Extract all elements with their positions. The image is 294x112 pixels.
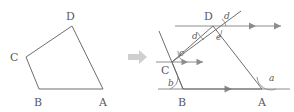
left-quadrilateral: A B C D xyxy=(10,10,108,109)
angle-label-e: e xyxy=(216,32,221,42)
edge-CD xyxy=(26,26,72,57)
geometry-figure: A B C D xyxy=(0,0,294,112)
angle-label-d-upper: d xyxy=(224,11,230,21)
vertex-label-C: C xyxy=(10,51,18,64)
right-construction: a b c d d e A B C D xyxy=(156,10,290,109)
edge-BC xyxy=(26,57,39,89)
angle-label-a: a xyxy=(269,73,274,83)
geometry-svg-canvas: A B C D xyxy=(0,0,294,112)
right-arrow-icon xyxy=(128,50,147,64)
edge-DA xyxy=(72,26,103,89)
vertex-label-B: B xyxy=(34,96,42,109)
vertex-label-D: D xyxy=(204,10,213,23)
vertex-label-C: C xyxy=(161,64,169,77)
angle-label-d-lower: d xyxy=(192,31,198,41)
vertex-label-B: B xyxy=(178,96,186,109)
vertex-label-A: A xyxy=(98,96,108,109)
vertex-label-D: D xyxy=(66,10,75,23)
angle-label-c: c xyxy=(179,48,184,58)
angle-label-b: b xyxy=(168,78,174,88)
vertex-label-A: A xyxy=(257,96,267,109)
parallel-line-through-D xyxy=(175,23,281,30)
